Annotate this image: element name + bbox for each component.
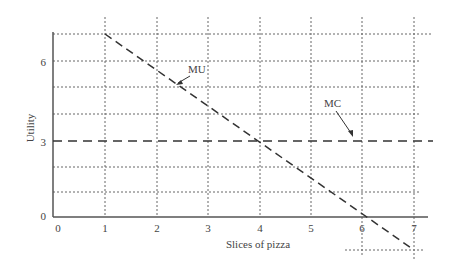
y-axis-title: Utility [24,113,36,142]
svg-text:1: 1 [102,222,108,234]
svg-text:3: 3 [205,222,211,234]
y-tick-labels: 6 3 0 [41,56,47,222]
svg-text:4: 4 [257,222,263,234]
x-axis-title: Slices of pizza [226,238,290,250]
arrow-icon [348,130,353,137]
axes [53,32,428,217]
svg-text:2: 2 [154,222,160,234]
svg-text:7: 7 [411,222,417,234]
x-tick-labels: 0 1 2 3 4 5 6 7 [55,222,417,234]
svg-text:0: 0 [55,222,61,234]
svg-text:5: 5 [308,222,314,234]
mc-annotation: MC [324,97,353,137]
svg-text:0: 0 [41,210,47,222]
svg-text:6: 6 [359,222,365,234]
mu-annotation: MU [176,63,206,85]
svg-text:6: 6 [41,56,47,68]
mu-label: MU [188,63,206,75]
utility-chart: MU MC 6 3 0 0 1 2 3 4 5 6 7 Slices of pi… [0,0,453,273]
svg-text:3: 3 [41,136,47,148]
mc-label: MC [324,97,341,109]
